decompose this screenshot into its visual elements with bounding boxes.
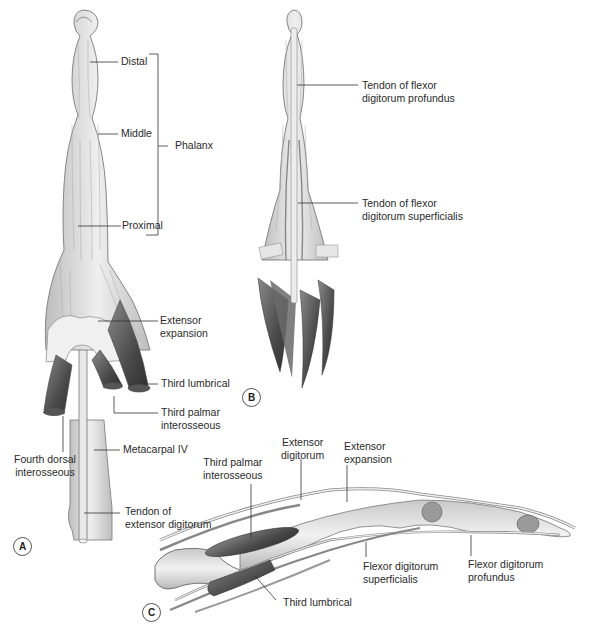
panel-badge-b: B <box>242 388 261 407</box>
label-distal: Distal <box>121 55 147 68</box>
label-metacarpal-iv: Metacarpal IV <box>123 443 188 456</box>
label-third-lumbrical-c: Third lumbrical <box>283 596 352 609</box>
label-proximal: Proximal <box>122 219 163 232</box>
panel-b-drawing <box>258 10 338 388</box>
panel-badge-a: A <box>13 537 32 556</box>
label-third-palmar-interosseous-c: Third palmar interosseous <box>203 456 263 481</box>
label-extensor-expansion-c: Extensor expansion <box>344 440 392 465</box>
finger-anatomy-figure: Distal Middle Proximal Phalanx Extensor … <box>0 0 594 629</box>
panel-badge-c: C <box>142 603 161 622</box>
label-extensor-digitorum-c: Extensor digitorum <box>281 436 324 461</box>
label-flexor-digitorum-profundus: Flexor digitorum profundus <box>468 558 543 583</box>
panel-c-drawing <box>155 489 575 612</box>
label-tendon-flexor-digitorum-superficialis: Tendon of flexor digitorum superficialis <box>362 197 463 222</box>
label-phalanx: Phalanx <box>175 139 213 152</box>
label-flexor-digitorum-superficialis: Flexor digitorum superficialis <box>363 560 438 585</box>
illustration-canvas <box>0 0 594 629</box>
label-fourth-dorsal-interosseous: Fourth dorsal interosseous <box>14 453 76 478</box>
label-middle: Middle <box>121 127 152 140</box>
label-tendon-extensor-digitorum: Tendon of extensor digitorum <box>125 505 211 530</box>
label-tendon-flexor-digitorum-profundus: Tendon of flexor digitorum profundus <box>362 79 455 104</box>
label-extensor-expansion-a: Extensor expansion <box>160 314 208 339</box>
label-third-palmar-interosseous-a: Third palmar interosseous <box>161 406 221 431</box>
label-third-lumbrical-a: Third lumbrical <box>161 377 230 390</box>
